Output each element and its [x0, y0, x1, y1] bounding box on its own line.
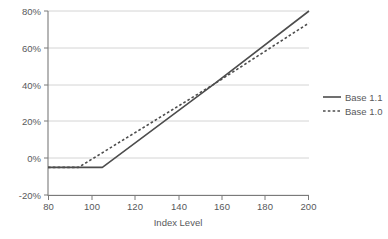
x-tick-label-180: 180 — [257, 201, 273, 212]
x-tick-label-120: 120 — [127, 201, 143, 212]
legend-label-base-1-0: Base 1.0 — [345, 106, 383, 117]
y-tick-label-minus20: -20% — [19, 190, 42, 201]
x-tick-label-100: 100 — [84, 201, 100, 212]
chart-container: 80% 60% 40% 20% 0% -20% 80 100 120 140 1… — [0, 0, 388, 239]
y-tick-label-80: 80% — [22, 6, 42, 17]
y-tick-label-20: 20% — [22, 116, 42, 127]
x-tick-label-160: 160 — [214, 201, 230, 212]
series-line-base-1-1 — [48, 11, 309, 167]
x-axis-title: Index Level — [154, 217, 203, 228]
legend: Base 1.1 Base 1.0 — [323, 92, 383, 117]
y-axis: 80% 60% 40% 20% 0% -20% — [19, 6, 48, 201]
y-tick-label-60: 60% — [22, 43, 42, 54]
x-tick-label-140: 140 — [171, 201, 187, 212]
legend-label-base-1-1: Base 1.1 — [345, 92, 383, 103]
y-tick-label-0: 0% — [27, 153, 41, 164]
x-axis: 80 100 120 140 160 180 200 Index Level — [43, 195, 316, 228]
x-tick-label-200: 200 — [301, 201, 317, 212]
series-group — [48, 11, 309, 167]
y-tick-label-40: 40% — [22, 80, 42, 91]
line-chart: 80% 60% 40% 20% 0% -20% 80 100 120 140 1… — [0, 0, 388, 239]
series-line-base-1-0 — [48, 23, 309, 167]
x-tick-label-80: 80 — [43, 201, 54, 212]
